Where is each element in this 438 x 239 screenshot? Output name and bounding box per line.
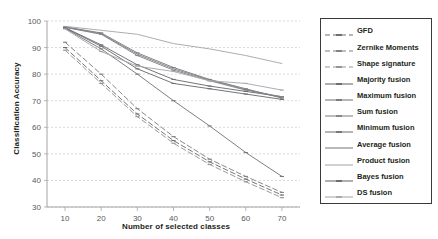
legend-swatch-icon [324,139,354,149]
y-axis-tick-label: 60 [32,123,41,132]
legend-item-label: Product fusion [357,157,410,165]
y-axis-title: Classification Accuracy [12,49,21,169]
legend-swatch-icon [324,58,354,68]
legend-swatch-icon [324,123,354,133]
legend-item-label: Zernike Moments [357,44,419,52]
series-line [65,27,282,97]
legend-swatch-icon [324,75,354,85]
legend-swatch-icon [324,188,354,198]
legend-item[interactable]: Majority fusion [324,72,428,88]
legend-item[interactable]: Bayes fusion [324,169,428,185]
y-axis-tick-label: 70 [32,97,41,106]
legend-item[interactable]: Product fusion [324,153,428,169]
legend-item-label: DS fusion [357,189,392,197]
legend-item-label: Sum fusion [357,108,398,116]
y-axis-tick-label: 80 [32,70,41,79]
legend-swatch-icon [324,172,354,182]
series-line [65,28,282,99]
y-axis-tick-label: 40 [32,176,41,185]
legend-item[interactable]: Maximum fusion [324,88,428,104]
y-axis-tick-label: 90 [32,44,41,53]
series-line [65,27,282,98]
chart-figure: 3040506070809010010203040506070 Classifi… [0,0,438,239]
series-line [65,42,282,192]
legend-item[interactable]: Minimum fusion [324,120,428,136]
legend-item[interactable]: Shape signature [324,55,428,71]
legend-item[interactable]: Average fusion [324,136,428,152]
y-axis-tick-label: 100 [28,17,42,26]
series-line [65,28,282,176]
legend-item[interactable]: Zernike Moments [324,39,428,55]
legend-item[interactable]: Sum fusion [324,104,428,120]
x-axis-title: Number of selected classes [60,222,292,231]
series-line [65,29,282,90]
y-axis-tick-label: 50 [32,150,41,159]
legend-item-label: Bayes fusion [357,173,404,181]
legend-item-label: Shape signature [357,60,415,68]
series-line [65,27,282,96]
legend-swatch-icon [324,156,354,166]
legend-item-label: Majority fusion [357,76,410,84]
legend-item-label: Average fusion [357,141,411,149]
series-line [65,28,282,97]
y-axis-tick-label: 30 [32,203,41,212]
legend-swatch-icon [324,42,354,52]
series-line [65,50,282,197]
legend-swatch-icon [324,91,354,101]
legend-swatch-icon [324,107,354,117]
legend-swatch-icon [324,26,354,36]
legend-item-label: Minimum fusion [357,124,415,132]
chart-legend: GFDZernike MomentsShape signatureMajorit… [320,18,432,204]
legend-item[interactable]: GFD [324,23,428,39]
legend-item[interactable]: DS fusion [324,185,428,201]
legend-item-label: GFD [357,27,373,35]
legend-item-label: Maximum fusion [357,92,416,100]
